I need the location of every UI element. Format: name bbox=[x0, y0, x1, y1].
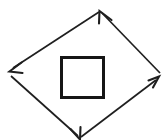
diagram-svg bbox=[0, 0, 165, 140]
diagram-canvas bbox=[0, 0, 165, 140]
diagram-background bbox=[0, 0, 165, 140]
